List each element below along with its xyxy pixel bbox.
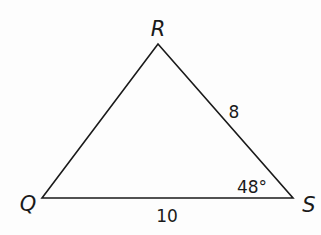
triangle-diagram: R Q S 8 10 48° [0, 0, 321, 235]
vertex-label-s: S [302, 193, 315, 217]
side-label-qs: 10 [156, 206, 178, 226]
triangle-qrs [42, 44, 293, 198]
vertex-label-r: R [151, 17, 166, 41]
angle-label-s: 48° [237, 177, 267, 197]
side-label-rs: 8 [229, 102, 240, 122]
vertex-label-q: Q [20, 192, 37, 216]
